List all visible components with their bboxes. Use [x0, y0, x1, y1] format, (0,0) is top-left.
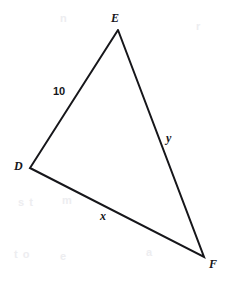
vertex-label-d: D	[14, 160, 23, 172]
vertex-label-e: E	[111, 12, 119, 24]
triangle-figure: s t m t o e a r n E D F 10 y x	[0, 0, 227, 283]
vertex-label-f: F	[209, 258, 217, 270]
side-label-df: x	[100, 210, 106, 222]
triangle-drawing	[0, 0, 227, 283]
side-label-de: 10	[53, 86, 65, 97]
side-label-ef: y	[166, 132, 171, 144]
triangle-outline-def	[30, 30, 204, 257]
